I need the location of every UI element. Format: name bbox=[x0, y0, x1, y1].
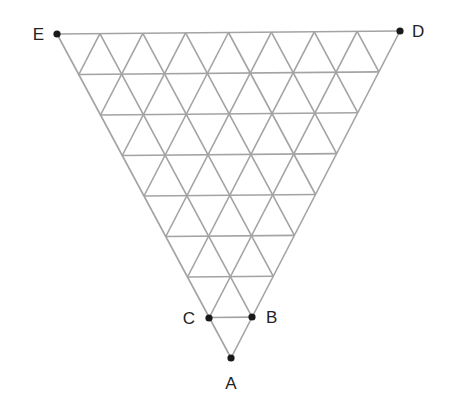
point-d-label: D bbox=[412, 22, 424, 41]
right-diagonal-grid-line bbox=[209, 31, 357, 317]
horizontal-grid-line bbox=[122, 154, 336, 156]
left-diagonal-grid-line bbox=[100, 34, 252, 318]
grid-lines bbox=[57, 31, 400, 358]
right-diagonal-grid-line bbox=[166, 32, 272, 236]
point-e-label: E bbox=[33, 25, 44, 44]
point-c-label: C bbox=[183, 309, 195, 328]
point-b-label: B bbox=[266, 308, 277, 327]
point-e-dot bbox=[53, 30, 60, 37]
horizontal-grid-line bbox=[79, 72, 379, 75]
point-a-label: A bbox=[225, 374, 237, 393]
point-a-dot bbox=[227, 354, 234, 361]
point-c-dot bbox=[205, 314, 212, 321]
point-d-dot bbox=[396, 27, 403, 34]
horizontal-grid-line bbox=[166, 235, 295, 236]
triangular-grid-diagram: ABCDE bbox=[0, 0, 451, 415]
point-b-dot bbox=[248, 313, 255, 320]
right-diagonal-grid-line bbox=[79, 34, 100, 75]
left-diagonal-grid-line bbox=[357, 31, 379, 72]
left-diagonal-grid-line bbox=[186, 33, 295, 236]
point-labels: ABCDE bbox=[33, 22, 425, 393]
